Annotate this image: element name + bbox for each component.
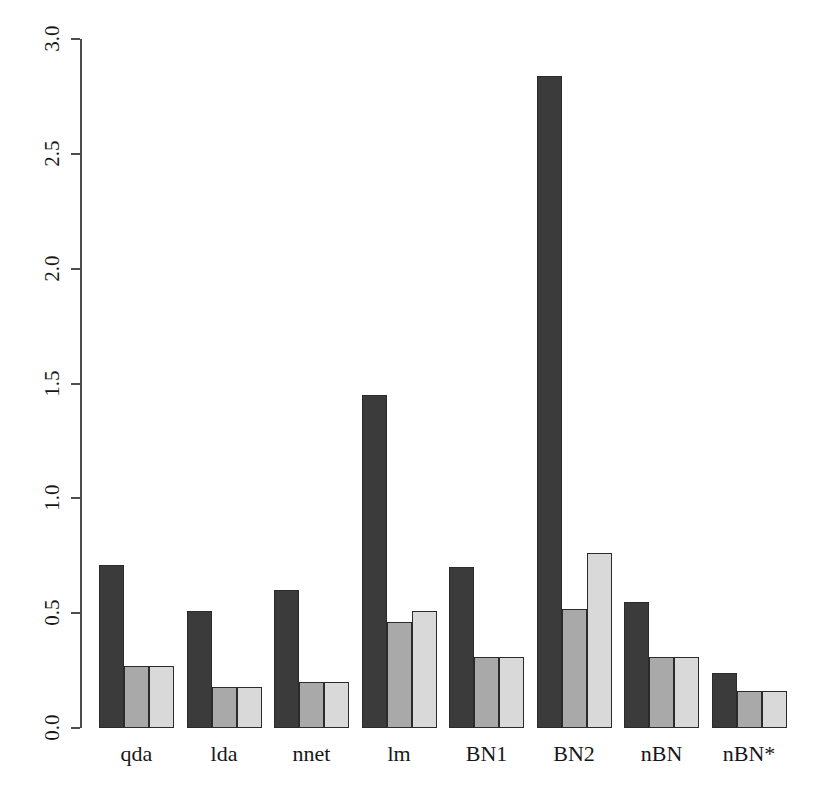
bar-qda-series-3	[149, 666, 174, 728]
bar-nBN*-series-3	[762, 691, 787, 728]
bars-layer	[80, 30, 810, 730]
y-axis-tick-label: 3.0	[42, 19, 63, 59]
bar-chart-figure: 0.00.51.01.52.02.53.0 qdaldannetlmBN1BN2…	[0, 0, 817, 797]
bar-BN2-series-2	[562, 609, 587, 728]
y-axis-tick-label: 1.0	[42, 478, 63, 518]
y-axis-tick-mark	[71, 268, 80, 270]
bar-BN1-series-2	[474, 657, 499, 728]
bar-qda-series-1	[99, 565, 124, 728]
bar-lda-series-1	[187, 611, 212, 728]
y-axis-tick-label: 1.5	[42, 363, 63, 403]
y-axis-tick-mark	[71, 38, 80, 40]
bar-BN1-series-1	[449, 567, 474, 728]
bar-nnet-series-3	[324, 682, 349, 728]
bar-nBN-series-2	[649, 657, 674, 728]
y-axis-tick-label: 0.5	[42, 593, 63, 633]
bar-BN1-series-3	[499, 657, 524, 728]
y-axis-tick-mark	[71, 612, 80, 614]
bar-nBN*-series-2	[737, 691, 762, 728]
y-axis-tick-label: 2.0	[42, 248, 63, 288]
x-axis-label-nBN*: nBN*	[694, 742, 805, 766]
bar-nBN-series-1	[624, 602, 649, 728]
bar-nBN*-series-1	[712, 673, 737, 728]
y-axis-tick-label: 2.5	[42, 133, 63, 173]
bar-nBN-series-3	[674, 657, 699, 728]
bar-nnet-series-2	[299, 682, 324, 728]
y-axis-tick-mark	[71, 727, 80, 729]
bar-lda-series-3	[237, 687, 262, 728]
y-axis-tick-mark	[71, 497, 80, 499]
y-axis-tick-mark	[71, 153, 80, 155]
bar-qda-series-2	[124, 666, 149, 728]
bar-lda-series-2	[212, 687, 237, 728]
bar-lm-series-2	[387, 622, 412, 728]
bar-BN2-series-3	[587, 553, 612, 728]
bar-BN2-series-1	[537, 76, 562, 728]
bar-nnet-series-1	[274, 590, 299, 728]
y-axis-tick-mark	[71, 383, 80, 385]
y-axis-tick-label: 0.0	[42, 708, 63, 748]
plot-area: 0.00.51.01.52.02.53.0 qdaldannetlmBN1BN2…	[80, 30, 810, 730]
bar-lm-series-1	[362, 395, 387, 728]
bar-lm-series-3	[412, 611, 437, 728]
